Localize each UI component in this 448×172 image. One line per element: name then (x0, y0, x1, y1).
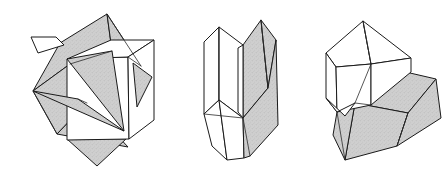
figure-canvas (0, 0, 448, 172)
middle-seam-facet (238, 45, 243, 118)
middle-left-prism-front (204, 27, 219, 114)
crystal-twin-figure (0, 0, 448, 172)
left-shaded-bottom-spike (67, 139, 126, 166)
diagram-right (326, 21, 441, 160)
diagram-left (31, 14, 154, 166)
right-shaded-front-face (345, 103, 408, 160)
diagram-middle (204, 20, 278, 160)
